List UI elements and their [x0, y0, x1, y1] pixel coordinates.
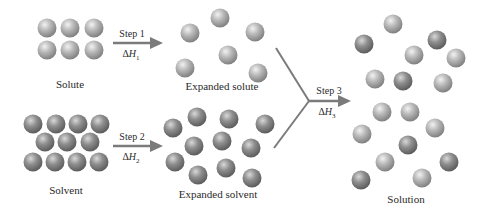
molecule-sphere [426, 119, 445, 138]
molecule-sphere [413, 169, 432, 188]
molecule-sphere [185, 137, 204, 156]
molecule-sphere [213, 132, 232, 151]
molecule-sphere [405, 46, 424, 65]
molecule-sphere [61, 41, 80, 60]
molecule-sphere [58, 133, 77, 152]
molecule-sphere [166, 153, 185, 172]
molecule-sphere [68, 153, 87, 172]
molecule-sphere [24, 115, 43, 134]
step3-enthalpy: ΔH3 [318, 106, 335, 120]
molecule-sphere [219, 46, 238, 65]
molecule-sphere [69, 115, 88, 134]
molecule-sphere [176, 59, 195, 78]
molecule-sphere [181, 24, 200, 43]
expanded-solute-group [176, 9, 268, 83]
molecule-sphere [211, 9, 230, 28]
step3-label: Step 3 [316, 85, 341, 96]
molecule-sphere [46, 153, 65, 172]
molecule-sphere [401, 103, 420, 122]
molecule-sphere [61, 19, 80, 38]
molecule-sphere [188, 108, 207, 127]
solution-group [352, 15, 466, 190]
molecule-sphere [447, 49, 466, 68]
solute-label: Solute [56, 78, 84, 90]
molecule-sphere [256, 115, 275, 134]
step3-merge-arrow-icon [274, 48, 351, 148]
solution-formation-diagram: Solute Expanded solute Solvent Expanded … [0, 0, 487, 224]
molecule-sphere [434, 74, 453, 93]
solvent-label: Solvent [49, 184, 83, 196]
molecule-sphere [353, 125, 372, 144]
molecule-sphere [90, 153, 109, 172]
step2-label: Step 2 [119, 131, 144, 142]
molecule-sphere [220, 110, 239, 129]
molecule-sphere [164, 119, 183, 138]
molecule-sphere [399, 136, 418, 155]
molecule-sphere [376, 153, 395, 172]
molecule-sphere [352, 171, 371, 190]
molecule-sphere [38, 41, 57, 60]
molecule-sphere [243, 169, 262, 188]
step2-enthalpy: ΔH2 [122, 151, 139, 165]
molecule-sphere [189, 166, 208, 185]
molecule-sphere [24, 153, 43, 172]
molecule-sphere [85, 19, 104, 38]
step1-label: Step 1 [119, 28, 144, 39]
molecule-sphere [355, 35, 374, 54]
expanded-solvent-group [164, 108, 275, 188]
molecule-sphere [36, 133, 55, 152]
expanded-solvent-label: Expanded solvent [179, 188, 258, 200]
solution-label: Solution [387, 193, 424, 205]
molecule-sphere [47, 115, 66, 134]
molecule-sphere [217, 159, 236, 178]
molecule-sphere [242, 139, 261, 158]
molecule-sphere [428, 31, 447, 50]
solute-group [38, 19, 104, 60]
molecule-sphere [38, 19, 57, 38]
molecule-sphere [91, 115, 110, 134]
expanded-solute-label: Expanded solute [185, 80, 258, 92]
step1-enthalpy: ΔH1 [122, 48, 139, 62]
molecule-sphere [85, 41, 104, 60]
molecule-sphere [366, 70, 385, 89]
molecule-sphere [81, 133, 100, 152]
molecule-spheres [24, 9, 466, 190]
molecule-sphere [246, 23, 265, 42]
molecule-sphere [394, 72, 413, 91]
molecule-sphere [384, 15, 403, 34]
molecule-sphere [373, 103, 392, 122]
solvent-group [24, 115, 110, 172]
molecule-sphere [440, 153, 459, 172]
